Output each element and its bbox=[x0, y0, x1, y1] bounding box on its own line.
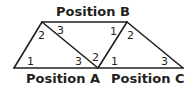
angle-c3: 3 bbox=[161, 55, 168, 68]
edge-c-right bbox=[127, 22, 183, 68]
angle-c1: 1 bbox=[111, 55, 118, 68]
label-position-a: Position A bbox=[26, 71, 100, 86]
angle-b1: 1 bbox=[110, 25, 117, 38]
angle-b2: 2 bbox=[92, 51, 99, 64]
angle-b3: 3 bbox=[57, 24, 64, 37]
edge-a-b-diagonal bbox=[42, 22, 98, 68]
label-position-c: Position C bbox=[111, 71, 185, 86]
angle-c2: 2 bbox=[127, 29, 134, 42]
angle-a3: 3 bbox=[75, 55, 82, 68]
angle-a1: 1 bbox=[27, 55, 34, 68]
angle-a2: 2 bbox=[38, 29, 45, 42]
label-position-b: Position B bbox=[56, 4, 130, 19]
triangle-positions-diagram: Position B 1 2 3 1 2 3 1 2 3 Position A … bbox=[0, 0, 191, 89]
